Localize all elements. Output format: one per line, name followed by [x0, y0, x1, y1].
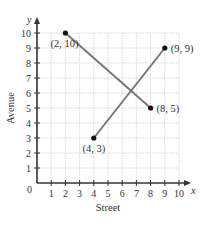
- origin-label: 0: [27, 184, 32, 195]
- x-axis-variable: x: [190, 185, 196, 196]
- point-label: (9, 9): [171, 43, 194, 55]
- x-axis-arrow-icon: [184, 180, 191, 186]
- y-tick-label: 5: [26, 103, 31, 114]
- chart: 1234567891012345678910 (2, 10)(8, 5)(4, …: [0, 0, 212, 227]
- x-tick-label: 2: [63, 188, 68, 199]
- x-tick-label: 7: [134, 188, 139, 199]
- data-point: [162, 45, 167, 50]
- y-axis-arrow-icon: [34, 17, 40, 24]
- y-tick-label: 7: [26, 73, 31, 84]
- data-point: [91, 135, 96, 140]
- y-axis-variable: y: [26, 14, 32, 25]
- y-tick-label: 8: [26, 58, 31, 69]
- y-tick-label: 10: [21, 28, 31, 39]
- data-point: [63, 30, 68, 35]
- x-tick-label: 8: [148, 188, 153, 199]
- x-tick-label: 6: [120, 188, 125, 199]
- x-tick-label: 5: [106, 188, 111, 199]
- y-tick-label: 4: [26, 118, 31, 129]
- x-tick-label: 3: [77, 188, 82, 199]
- x-tick-label: 9: [162, 188, 167, 199]
- y-tick-label: 2: [26, 148, 31, 159]
- data-point: [148, 105, 153, 110]
- x-tick-label: 1: [49, 188, 54, 199]
- point-label: (8, 5): [157, 103, 180, 115]
- y-tick-label: 1: [26, 163, 31, 174]
- x-tick-label: 10: [174, 188, 184, 199]
- y-tick-label: 9: [26, 43, 31, 54]
- point-label: (4, 3): [82, 143, 105, 155]
- x-axis-title: Street: [96, 202, 121, 213]
- x-tick-label: 4: [91, 188, 96, 199]
- point-label: (2, 10): [50, 38, 78, 50]
- y-axis-title: Avenue: [5, 92, 16, 124]
- y-tick-label: 6: [26, 88, 31, 99]
- y-tick-label: 3: [26, 133, 31, 144]
